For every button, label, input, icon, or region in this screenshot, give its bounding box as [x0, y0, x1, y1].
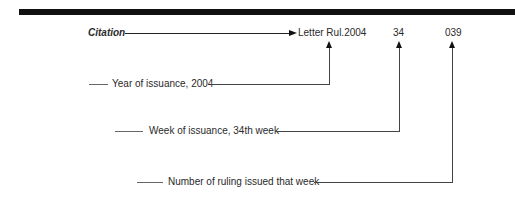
week-connector-vertical [399, 48, 400, 132]
citation-prefix-year: Letter Rul.2004 [298, 27, 366, 39]
arrow-up-icon [396, 41, 402, 48]
year-leader-dash [89, 84, 108, 85]
week-connector-horizontal [276, 131, 400, 132]
header-rule [19, 9, 515, 15]
citation-number: 039 [445, 27, 462, 39]
year-connector-vertical [329, 48, 330, 85]
number-leader-dash [137, 182, 163, 183]
number-connector-vertical [452, 48, 453, 183]
annotation-year: Year of issuance, 2004 [112, 78, 213, 90]
year-connector-horizontal [211, 84, 330, 85]
citation-label: Citation [88, 27, 125, 39]
annotation-number: Number of ruling issued that week [168, 176, 319, 188]
citation-arrow-line [125, 33, 291, 34]
arrow-up-icon [449, 41, 455, 48]
arrow-up-icon [326, 41, 332, 48]
annotation-week: Week of issuance, 34th week [149, 125, 279, 137]
citation-week: 34 [393, 27, 404, 39]
week-leader-dash [115, 131, 143, 132]
number-connector-horizontal [314, 182, 453, 183]
arrow-right-icon [289, 30, 297, 36]
